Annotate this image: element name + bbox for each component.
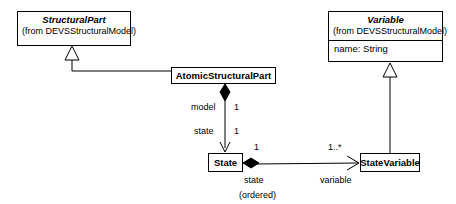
assoc-role-state-lower: state: [244, 176, 264, 185]
class-header-structural-part: StructuralPart (from DEVSStructuralModel…: [18, 12, 130, 40]
class-header-variable: Variable (from DEVSStructuralModel): [329, 12, 442, 40]
class-from-structural-part: (from DEVSStructuralModel): [22, 26, 126, 36]
assoc-role-variable: variable: [320, 176, 352, 185]
class-attribute-variable-name: name: String: [329, 40, 442, 56]
assoc-multiplicity-state-source-one: 1: [254, 143, 259, 152]
class-name-structural-part: StructuralPart: [22, 15, 126, 26]
class-box-structural-part[interactable]: StructuralPart (from DEVSStructuralModel…: [17, 11, 131, 46]
composition-atomic-to-state: [220, 84, 230, 152]
assoc-multiplicity-statevariable-onestar: 1..*: [328, 143, 342, 152]
class-name-variable: Variable: [333, 15, 438, 26]
class-name-state-variable: StateVariable: [360, 157, 420, 168]
class-box-variable[interactable]: Variable (from DEVSStructuralModel) name…: [328, 11, 443, 62]
assoc-multiplicity-state-one: 1: [234, 127, 239, 136]
assoc-role-model: model: [191, 103, 216, 112]
class-name-atomic-structural-part: AtomicStructuralPart: [176, 70, 272, 81]
assoc-constraint-ordered: (ordered): [239, 191, 276, 200]
generalization-atomic-to-structuralpart: [65, 46, 171, 71]
assoc-multiplicity-model-one: 1: [234, 103, 239, 112]
class-box-state-variable[interactable]: StateVariable: [360, 153, 420, 172]
assoc-role-state-upper: state: [194, 127, 214, 136]
class-from-variable: (from DEVSStructuralModel): [333, 26, 438, 36]
class-box-atomic-structural-part[interactable]: AtomicStructuralPart: [171, 67, 276, 84]
uml-class-diagram: StructuralPart (from DEVSStructuralModel…: [0, 0, 456, 204]
generalization-statevariable-to-variable: [383, 63, 397, 153]
composition-state-to-statevariable: [243, 156, 359, 170]
class-name-state: State: [214, 157, 237, 168]
class-box-state[interactable]: State: [208, 153, 243, 172]
